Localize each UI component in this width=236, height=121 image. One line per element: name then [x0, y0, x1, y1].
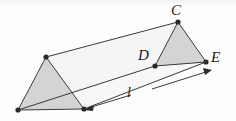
geometry-figure: C D E l — [0, 0, 236, 121]
vertex-dot-C — [175, 19, 180, 24]
vertex-dot-D — [152, 63, 157, 68]
vertex-dot-back-right — [81, 106, 86, 111]
vertex-label-C: C — [171, 3, 181, 18]
prism-drawing — [0, 0, 236, 121]
vertex-dot-back-left — [15, 107, 20, 112]
vertex-label-E: E — [211, 50, 220, 65]
vertex-dot-E — [203, 59, 208, 64]
dimension-arrowhead-right-icon — [203, 68, 212, 75]
vertex-label-D: D — [138, 48, 149, 63]
vertex-dot-back-apex — [43, 54, 48, 59]
dimension-label-length: l — [127, 86, 131, 100]
